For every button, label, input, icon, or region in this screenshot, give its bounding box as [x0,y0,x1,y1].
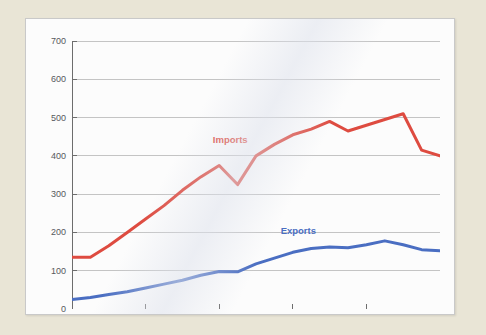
y-axis-tick-label: 0 [61,304,66,314]
y-axis-tick-label: 300 [51,189,66,199]
series-label-exports: Exports [281,224,316,235]
series-line-exports [72,241,440,300]
y-axis-tick-label: 400 [51,151,66,161]
y-axis-tick-label: 500 [51,113,66,123]
plot-area: 0100200300400500600700200020042008201220… [72,41,440,309]
series-label-imports: Imports [213,133,248,144]
y-axis-tick-label: 100 [51,266,66,276]
chart-screenshot: 0100200300400500600700200020042008201220… [0,0,486,335]
y-axis-tick-label: 600 [51,74,66,84]
y-axis-tick-label: 700 [51,36,66,46]
chart-panel: 0100200300400500600700200020042008201220… [25,18,455,315]
y-axis-tick-label: 200 [51,227,66,237]
series-line-imports [72,114,440,258]
chart-svg [72,41,440,309]
